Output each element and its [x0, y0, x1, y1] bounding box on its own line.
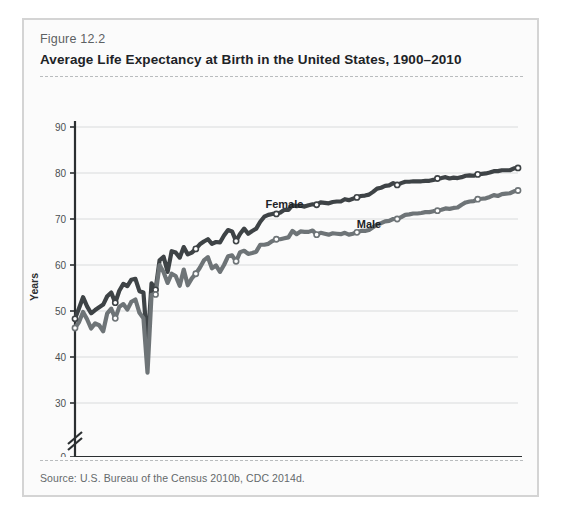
- svg-text:Male: Male: [357, 218, 381, 230]
- axis-lines-group: [68, 121, 522, 457]
- svg-text:30: 30: [55, 398, 67, 409]
- data-markers-group: [72, 165, 520, 330]
- svg-text:60: 60: [55, 260, 67, 271]
- figure-container: Figure 12.2 Average Life Expectancy at B…: [22, 18, 539, 497]
- line-chart: 030405060708090 190019101920193019401950…: [24, 82, 537, 457]
- y-axis-ticks-group: 030405060708090: [55, 122, 75, 458]
- svg-text:Female: Female: [265, 198, 303, 210]
- divider-bottom: [40, 460, 523, 461]
- figure-title: Average Life Expectancy at Birth in the …: [40, 52, 462, 67]
- svg-text:40: 40: [55, 352, 67, 363]
- y-axis-title: Years: [28, 273, 40, 301]
- svg-text:80: 80: [55, 168, 67, 179]
- svg-text:0: 0: [60, 452, 66, 458]
- figure-source-note: Source: U.S. Bureau of the Census 2010b,…: [40, 472, 305, 484]
- divider-top: [40, 76, 523, 77]
- chart-plot-area: 030405060708090 190019101920193019401950…: [24, 82, 537, 457]
- figure-number-label: Figure 12.2: [40, 32, 105, 46]
- gridlines-group: [75, 127, 518, 403]
- svg-text:70: 70: [55, 214, 67, 225]
- svg-text:90: 90: [55, 122, 67, 133]
- svg-text:50: 50: [55, 306, 67, 317]
